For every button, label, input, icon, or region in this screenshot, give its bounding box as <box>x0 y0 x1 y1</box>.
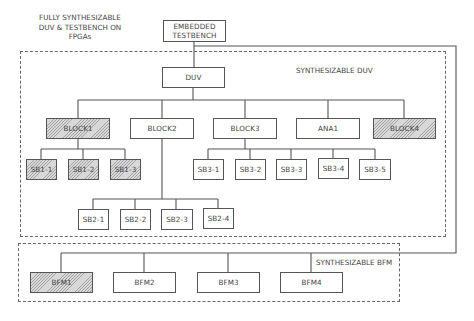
title-line-1: FULLY SYNTHESIZABLE <box>20 13 140 23</box>
sb2-4-box: SB2-4 <box>203 208 234 229</box>
sb1-3-box: SB1-3 <box>110 159 141 180</box>
sb1-2-box: SB1-2 <box>68 159 99 180</box>
embedded-testbench-box: EMBEDDED TESTBENCH <box>163 20 226 42</box>
sb3-5-box: SB3-5 <box>359 159 391 180</box>
sb3-2-box: SB3-2 <box>235 159 266 180</box>
sb2-2-box: SB2-2 <box>120 209 151 230</box>
sb3-1-box: SB3-1 <box>193 159 224 180</box>
bfm1-box: BFM1 <box>30 272 93 293</box>
block1-box: BLOCK1 <box>46 118 110 139</box>
block4-box: BLOCK4 <box>373 118 436 139</box>
synthesizable-bfm-label: SYNTHESIZABLE BFM <box>316 258 392 268</box>
duv-box: DUV <box>162 67 225 88</box>
testbench-line-1: EMBEDDED <box>173 22 215 31</box>
sb2-1-box: SB2-1 <box>78 209 109 230</box>
bfm4-box: BFM4 <box>280 272 343 293</box>
bfm2-box: BFM2 <box>113 272 176 293</box>
block3-box: BLOCK3 <box>213 118 277 139</box>
sb3-4-box: SB3-4 <box>318 158 349 179</box>
testbench-line-2: TESTBENCH <box>172 31 216 40</box>
sb2-3-box: SB2-3 <box>161 209 193 230</box>
title-line-3: FPGAs <box>20 32 140 42</box>
ana1-box: ANA1 <box>296 118 360 139</box>
sb3-3-box: SB3-3 <box>276 159 307 180</box>
diagram-title: FULLY SYNTHESIZABLE DUV & TESTBENCH ON F… <box>20 13 140 42</box>
block2-box: BLOCK2 <box>130 118 194 139</box>
synthesizable-duv-label: SYNTHESIZABLE DUV <box>296 66 373 76</box>
title-line-2: DUV & TESTBENCH ON <box>20 23 140 33</box>
bfm3-box: BFM3 <box>197 272 260 293</box>
sb1-1-box: SB1-1 <box>26 159 57 180</box>
